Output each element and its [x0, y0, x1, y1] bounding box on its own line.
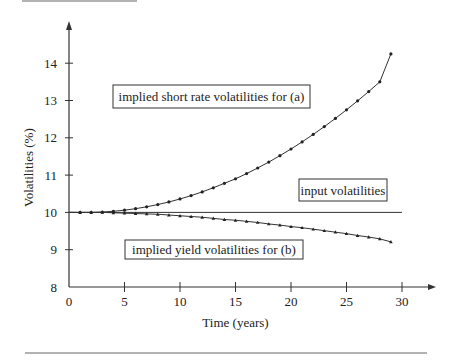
- dot-marker-icon: [223, 182, 226, 185]
- dot-marker-icon: [256, 166, 259, 169]
- y-tick-label: 8: [51, 280, 58, 295]
- series: [69, 52, 402, 243]
- dot-marker-icon: [378, 80, 381, 83]
- dot-marker-icon: [178, 197, 181, 200]
- annotation-label: implied short rate volatilities for (a): [119, 89, 305, 104]
- x-tick-label: 0: [66, 294, 73, 309]
- y-tick-label: 10: [44, 205, 57, 220]
- dot-marker-icon: [356, 99, 359, 102]
- y-tick-label: 12: [44, 130, 57, 145]
- annotation-label: implied yield volatilities for (b): [132, 242, 296, 257]
- volatility-chart: 891011121314051015202530Time (years)Vola…: [0, 0, 455, 361]
- dot-marker-icon: [389, 52, 392, 55]
- x-tick-label: 30: [396, 294, 409, 309]
- y-axis-label: Volatilities (%): [21, 128, 36, 207]
- dot-marker-icon: [167, 200, 170, 203]
- dot-marker-icon: [156, 203, 159, 206]
- dot-marker-icon: [367, 90, 370, 93]
- dot-marker-icon: [267, 160, 270, 163]
- x-tick-label: 25: [340, 294, 353, 309]
- dot-marker-icon: [301, 140, 304, 143]
- x-tick-label: 5: [121, 294, 128, 309]
- series-line-2: [69, 212, 391, 241]
- y-tick-label: 11: [44, 168, 57, 183]
- dot-marker-icon: [289, 147, 292, 150]
- y-tick-label: 13: [44, 93, 57, 108]
- dot-marker-icon: [123, 209, 126, 212]
- dot-marker-icon: [134, 207, 137, 210]
- annotation-label: input volatilities: [301, 183, 386, 198]
- axes: 891011121314051015202530Time (years)Vola…: [21, 21, 436, 330]
- dot-marker-icon: [234, 177, 237, 180]
- y-axis-arrow-icon: [66, 21, 72, 30]
- dot-marker-icon: [245, 172, 248, 175]
- dot-marker-icon: [278, 154, 281, 157]
- x-axis-arrow-icon: [428, 284, 436, 290]
- dot-marker-icon: [323, 125, 326, 128]
- x-tick-label: 20: [285, 294, 298, 309]
- y-tick-label: 14: [44, 56, 58, 71]
- dot-marker-icon: [145, 205, 148, 208]
- x-tick-label: 10: [174, 294, 187, 309]
- dot-marker-icon: [190, 194, 193, 197]
- dot-marker-icon: [312, 133, 315, 136]
- x-tick-label: 15: [229, 294, 242, 309]
- y-tick-label: 9: [51, 242, 58, 257]
- dot-marker-icon: [334, 117, 337, 120]
- dot-marker-icon: [345, 108, 348, 111]
- dot-marker-icon: [201, 190, 204, 193]
- dot-marker-icon: [212, 186, 215, 189]
- x-axis-label: Time (years): [202, 315, 268, 330]
